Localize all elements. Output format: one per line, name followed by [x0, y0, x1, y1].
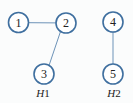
node-2: 2: [56, 13, 76, 33]
node-1: 1: [9, 13, 29, 33]
node-2-label: 2: [63, 16, 69, 30]
graph-h2-label: H2: [106, 87, 120, 99]
graph-diagram: 1 2 3 H1 4 5 H2: [0, 0, 133, 103]
graph-h1: 1 2 3 H1: [9, 13, 77, 100]
graph-h1-label: H1: [35, 87, 49, 99]
node-3-label: 3: [41, 67, 47, 81]
node-4-label: 4: [110, 15, 116, 29]
node-5: 5: [103, 64, 123, 84]
node-3: 3: [34, 64, 54, 84]
graph-svg: 1 2 3 H1 4 5 H2: [0, 0, 133, 103]
edge-2-3: [49, 32, 61, 66]
node-5-label: 5: [110, 67, 116, 81]
node-4: 4: [103, 12, 123, 32]
node-1-label: 1: [16, 16, 22, 30]
